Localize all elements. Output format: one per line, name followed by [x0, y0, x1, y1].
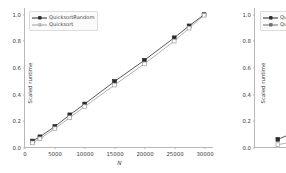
data-point-marker [113, 83, 117, 87]
legend-label: Quicksort [280, 21, 286, 28]
y-tick-mark [23, 94, 25, 95]
y-tick-label: 0.4 [12, 92, 21, 98]
x-tick-mark [25, 147, 26, 149]
data-point-marker [202, 13, 206, 17]
y-axis-label-left: Scaled runtime [27, 48, 33, 118]
y-tick-label: 0.0 [12, 145, 21, 151]
y-tick-label: 0.6 [12, 65, 21, 71]
x-tick-mark [175, 147, 176, 149]
legend-item-quicksort[interactable]: Quicksort [32, 21, 94, 28]
y-tick-mark [253, 94, 255, 95]
legend-right[interactable]: Quicksort Quicksort [260, 11, 286, 31]
data-point-marker [31, 141, 35, 145]
x-tick-mark [115, 147, 116, 149]
data-point-marker [83, 105, 87, 109]
plot-area-left: 0.00.20.40.60.81.0 050001000015000200002… [24, 8, 213, 148]
y-tick-label: 0.2 [12, 118, 21, 124]
data-point-marker [172, 39, 176, 43]
y-axis-label-right: Scaled runtime [260, 48, 266, 118]
legend-label: Quicksort [49, 21, 73, 28]
line-marker-icon [32, 14, 47, 21]
x-tick-label: 30000 [196, 151, 213, 157]
x-tick-mark [145, 147, 146, 149]
data-point-marker [113, 80, 117, 84]
line-marker-icon [263, 21, 278, 28]
x-tick-mark [55, 147, 56, 149]
x-tick-label: 20000 [136, 151, 153, 157]
y-tick-label: 0.0 [242, 145, 251, 151]
y-tick-label: 1.0 [12, 12, 21, 18]
legend-label: Quicksort [280, 14, 286, 21]
data-point-marker [38, 137, 42, 141]
line-marker-icon [263, 14, 278, 21]
line-marker-icon [32, 21, 47, 28]
y-tick-label: 0.6 [242, 65, 251, 71]
data-point-marker [276, 137, 280, 141]
x-tick-mark [205, 147, 206, 149]
legend-label: QuicksortRandom [49, 14, 94, 21]
y-tick-mark [253, 41, 255, 42]
x-tick-label: 25000 [166, 151, 183, 157]
y-tick-label: 0.2 [242, 118, 251, 124]
x-tick-mark [85, 147, 86, 149]
y-tick-mark [23, 68, 25, 69]
legend-item-quicksort-light[interactable]: Quicksort [263, 21, 286, 28]
legend-left[interactable]: QuicksortRandom Quicksort [29, 11, 98, 31]
y-tick-label: 0.4 [242, 92, 251, 98]
y-tick-mark [23, 14, 25, 15]
x-tick-label: 15000 [106, 151, 123, 157]
data-point-marker [276, 143, 280, 147]
x-tick-label: 0 [23, 151, 26, 157]
legend-item-quicksort-dark[interactable]: Quicksort [263, 14, 286, 21]
data-point-marker [142, 62, 146, 66]
data-point-marker [142, 58, 146, 62]
data-point-marker [68, 116, 72, 120]
chart-panel-left: 0.00.20.40.60.81.0 050001000015000200002… [0, 0, 222, 173]
y-tick-label: 0.8 [242, 38, 251, 44]
legend-item-quicksortrandom[interactable]: QuicksortRandom [32, 14, 94, 21]
y-tick-mark [23, 41, 25, 42]
series-line [32, 15, 204, 141]
x-axis-label-left: N [25, 160, 214, 166]
y-tick-label: 0.8 [12, 38, 21, 44]
y-tick-mark [23, 121, 25, 122]
x-tick-label: 5000 [48, 151, 62, 157]
y-tick-mark [253, 148, 255, 149]
y-tick-mark [253, 121, 255, 122]
x-tick-label: 10000 [76, 151, 93, 157]
y-tick-label: 1.0 [242, 12, 251, 18]
plot-area-right: 0.00.20.40.60.81.0 2500 Scaled runtime Q… [254, 8, 286, 148]
chart-panel-right: 0.00.20.40.60.81.0 2500 Scaled runtime Q… [228, 0, 286, 173]
y-tick-mark [253, 14, 255, 15]
figure-canvas: 0.00.20.40.60.81.0 050001000015000200002… [0, 0, 286, 173]
data-point-marker [187, 26, 191, 30]
y-tick-mark [253, 68, 255, 69]
series-line [278, 124, 286, 139]
data-point-marker [53, 127, 57, 131]
